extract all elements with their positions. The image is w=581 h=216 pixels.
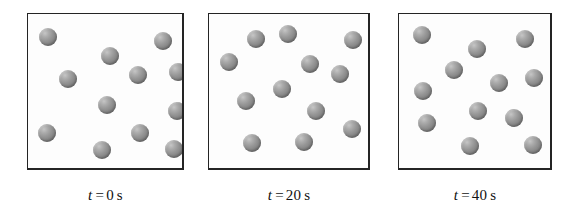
particle: [445, 61, 463, 79]
panel-caption: t=40s: [398, 187, 552, 204]
caption-time-unit: s: [487, 187, 496, 203]
particle: [301, 55, 319, 73]
particle: [169, 63, 184, 81]
particle-container-box: [27, 13, 184, 170]
particle: [414, 82, 432, 100]
particle: [505, 109, 523, 127]
particle-diffusion-figure: t=0st=20st=40s: [0, 0, 581, 216]
particle: [307, 102, 325, 120]
particle: [490, 74, 508, 92]
particle: [93, 141, 111, 159]
particle: [101, 47, 119, 65]
panel-caption: t=20s: [208, 187, 370, 204]
particle: [279, 25, 297, 43]
particle: [468, 40, 486, 58]
panel-caption: t=0s: [27, 187, 184, 204]
caption-time-value: 20: [286, 187, 301, 203]
particle-container-box: [398, 13, 552, 170]
particle: [98, 96, 116, 114]
particle: [59, 70, 77, 88]
particle: [413, 26, 431, 44]
particle: [343, 120, 361, 138]
particle: [344, 31, 362, 49]
particle: [273, 80, 291, 98]
particle: [295, 133, 313, 151]
caption-time-unit: s: [301, 187, 310, 203]
caption-equals-sign: =: [93, 187, 106, 203]
particle: [154, 32, 172, 50]
particle: [525, 69, 543, 87]
particle: [168, 102, 184, 120]
particle: [461, 137, 479, 155]
particle: [237, 92, 255, 110]
particle: [524, 136, 542, 154]
caption-time-value: 40: [472, 187, 487, 203]
particle: [331, 65, 349, 83]
particle: [131, 124, 149, 142]
caption-equals-sign: =: [273, 187, 286, 203]
particle: [247, 30, 265, 48]
particle: [418, 114, 436, 132]
particle: [38, 124, 56, 142]
caption-time-value: 0: [106, 187, 114, 203]
particle: [469, 102, 487, 120]
particle: [129, 66, 147, 84]
particle: [516, 30, 534, 48]
particle: [220, 53, 238, 71]
particle: [243, 134, 261, 152]
caption-time-unit: s: [114, 187, 123, 203]
particle: [165, 140, 183, 158]
caption-equals-sign: =: [459, 187, 472, 203]
particle: [39, 28, 57, 46]
particle-container-box: [208, 13, 370, 170]
